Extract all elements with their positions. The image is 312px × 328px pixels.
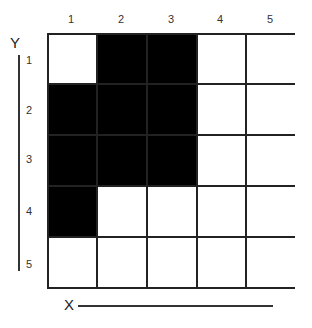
grid-hline bbox=[47, 185, 295, 187]
grid-cell-r2-c1 bbox=[47, 83, 97, 135]
grid-cell-r3-c1 bbox=[47, 134, 97, 186]
grid-vline bbox=[245, 33, 247, 288]
grid-hline bbox=[47, 33, 295, 35]
grid-hline bbox=[47, 287, 295, 289]
grid bbox=[0, 0, 312, 328]
grid-vline bbox=[47, 33, 49, 288]
grid-hline bbox=[47, 83, 295, 85]
grid-cell-r2-c3 bbox=[146, 83, 197, 135]
grid-cell-r5-c1 bbox=[47, 236, 97, 288]
grid-cell-r5-c3 bbox=[146, 236, 197, 288]
grid-cell-r1-c4 bbox=[196, 33, 246, 84]
grid-cell-r1-c3 bbox=[146, 33, 197, 84]
grid-cell-r4-c5 bbox=[245, 185, 296, 237]
grid-cell-r3-c3 bbox=[146, 134, 197, 186]
grid-cell-r3-c5 bbox=[245, 134, 296, 186]
grid-cell-r5-c5 bbox=[245, 236, 296, 288]
grid-cell-r2-c4 bbox=[196, 83, 246, 135]
grid-cell-r4-c3 bbox=[146, 185, 197, 237]
grid-vline bbox=[146, 33, 148, 288]
grid-cell-r4-c4 bbox=[196, 185, 246, 237]
grid-cell-r1-c1 bbox=[47, 33, 97, 84]
grid-vline bbox=[96, 33, 98, 288]
grid-hline bbox=[47, 236, 295, 238]
grid-cell-r2-c5 bbox=[245, 83, 296, 135]
grid-cell-r5-c4 bbox=[196, 236, 246, 288]
grid-cell-r3-c2 bbox=[96, 134, 147, 186]
grid-cell-r1-c2 bbox=[96, 33, 147, 84]
grid-cell-r4-c1 bbox=[47, 185, 97, 237]
grid-cell-r5-c2 bbox=[96, 236, 147, 288]
grid-vline bbox=[196, 33, 198, 288]
grid-hline bbox=[47, 134, 295, 136]
grid-cell-r4-c2 bbox=[96, 185, 147, 237]
grid-cell-r2-c2 bbox=[96, 83, 147, 135]
grid-cell-r1-c5 bbox=[245, 33, 296, 84]
grid-cell-r3-c4 bbox=[196, 134, 246, 186]
